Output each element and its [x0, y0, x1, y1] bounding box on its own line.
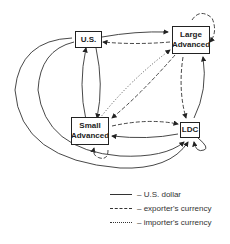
dashed-line-icon: [110, 208, 132, 209]
node-us-label: U.S.: [81, 35, 97, 45]
node-small-label-2: Advanced: [71, 131, 109, 141]
legend-item-exporter: – exporter's currency: [110, 201, 211, 215]
node-large-label-2: Advanced: [172, 40, 210, 50]
node-small-label-1: Small: [79, 121, 100, 131]
legend-item-us-dollar: – U.S. dollar: [110, 187, 211, 201]
dotted-line-icon: [110, 222, 132, 223]
legend-label: – exporter's currency: [137, 204, 211, 213]
node-ldc-label: LDC: [182, 125, 198, 135]
node-us: U.S.: [75, 31, 102, 48]
node-ldc: LDC: [180, 122, 200, 138]
node-small-advanced: Small Advanced: [71, 117, 109, 145]
legend-item-importer: – importer's currency: [110, 215, 211, 229]
legend-label: – importer's currency: [137, 218, 211, 227]
node-large-advanced: Large Advanced: [172, 26, 210, 54]
legend: – U.S. dollar – exporter's currency – im…: [110, 187, 211, 229]
solid-line-icon: [110, 194, 132, 195]
legend-label: – U.S. dollar: [137, 190, 181, 199]
node-large-label-1: Large: [180, 30, 202, 40]
